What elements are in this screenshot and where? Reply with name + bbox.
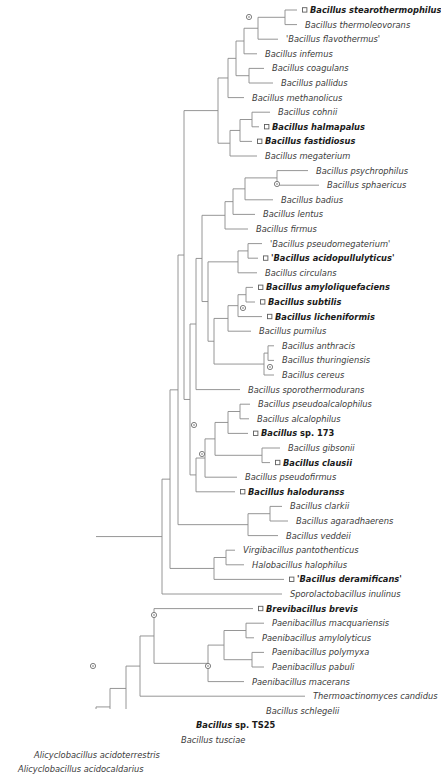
taxon-label: Bacillus firmus [256, 225, 317, 233]
highlighted-taxon-marker [258, 139, 262, 143]
taxon-label: Bacillus agaradhaerens [296, 517, 393, 525]
taxon-label: Virgibacillus pantothenticus [243, 546, 359, 554]
node-stearothermophilus-clade-dot [248, 16, 250, 18]
node-brevibacillus-paenibacillus-dot [153, 614, 155, 616]
taxon-label: Bacillus gibsonii [288, 444, 355, 452]
taxon-label: Bacillus megaterium [265, 152, 350, 160]
taxon-label: Bacillus lentus [263, 210, 323, 218]
taxon-label: Bacillus sphaericus [327, 181, 406, 189]
taxon-label: Bacillus pseudoalcalophilus [258, 400, 372, 408]
taxon-label: Bacillus schlegelii [266, 707, 339, 715]
taxon-label: Bacillus thuringiensis [282, 356, 370, 364]
taxon-label: Bacillus coagulans [272, 64, 349, 72]
taxon-label: Bacillus fastidiosus [265, 137, 355, 145]
taxon-label: Paenibacillus amylolyticus [262, 634, 371, 642]
taxon-label: 'Bacillus flavothermus' [286, 35, 380, 43]
taxon-label: Bacillus sporothermodurans [248, 385, 364, 393]
node-bacillus-core-dot [193, 424, 195, 426]
taxon-label: Bacillus haloduranss [248, 488, 344, 496]
taxon-label: Bacillus methanolicus [252, 93, 342, 101]
node-paenibacillus-polymyxa-dot [207, 665, 209, 667]
taxon-label: Bacillus thermoleovorans [305, 20, 410, 28]
highlighted-taxon-marker [276, 460, 280, 464]
taxon-label: Bacillus infemus [265, 50, 333, 58]
node-deep-backbone-dot [92, 665, 94, 667]
taxon-label: Bacillus halmapalus [272, 123, 365, 131]
taxon-label: Bacillus pallidus [281, 79, 348, 87]
node-subtilis-clade-dot [242, 307, 244, 309]
taxon-label: Paenibacillus pabuli [272, 663, 354, 671]
taxon-label: Paenibacillus macquariensis [272, 619, 389, 627]
node-alkaliphilic-clade-dot [201, 453, 203, 455]
taxon-label: Bacillus sp. TS25 [196, 721, 275, 729]
taxon-label: Bacillus licheniformis [275, 312, 375, 320]
taxon-label: Bacillus badius [281, 196, 343, 204]
taxon-label: Paenibacillus polymyxa [272, 648, 369, 656]
taxon-label: Thermoactinomyces candidus [313, 692, 437, 700]
highlighted-taxon-marker [254, 431, 258, 435]
taxon-label: 'Bacillus deramificans' [297, 575, 402, 583]
taxon-label: Bacillus stearothermophilus [310, 6, 441, 14]
taxon-label: Bacillus tusciae [181, 736, 245, 744]
highlighted-taxon-marker [264, 256, 268, 260]
taxon-label: Halobacillus halophilus [252, 561, 347, 569]
taxon-label: Bacillus sp. 173 [261, 429, 334, 437]
taxon-label: Bacillus clausii [283, 458, 352, 466]
taxon-label: Bacillus subtilis [268, 298, 341, 306]
taxon-label: Bacillus alcalophilus [257, 415, 341, 423]
taxon-label: Bacillus clarkii [290, 502, 349, 510]
taxon-label: Alicyclobacillus acidoterrestris [34, 750, 160, 758]
highlighted-taxon-marker [259, 606, 263, 610]
taxon-label: Bacillus pseudofirmus [245, 473, 336, 481]
highlighted-taxon-marker [265, 125, 269, 129]
taxon-label: Bacillus pumilus [259, 327, 326, 335]
taxon-label: Bacillus anthracis [282, 342, 355, 350]
node-psychrophilus-sphaericus-dot [276, 183, 278, 185]
taxon-label: Bacillus amyloliquefaciens [266, 283, 390, 291]
taxon-label: 'Bacillus pseudomegaterium' [270, 239, 390, 247]
highlighted-taxon-marker [241, 490, 245, 494]
taxon-label: Bacillus circulans [265, 269, 337, 277]
taxon-label: Sporolactobacillus inulinus [290, 590, 401, 598]
taxon-label: Bacillus veddeii [286, 531, 351, 539]
node-cereus-group-dot [269, 366, 271, 368]
taxon-label: Bacillus cohnii [278, 108, 337, 116]
taxon-label: 'Bacillus acidopullulyticus' [271, 254, 394, 262]
highlighted-taxon-marker [290, 577, 294, 581]
taxon-label: Alicyclobacillus acidocaldarius [18, 765, 144, 773]
taxon-label: Brevibacillus brevis [266, 604, 358, 612]
highlighted-taxon-marker [268, 314, 272, 318]
taxon-label: Bacillus cereus [282, 371, 344, 379]
highlighted-taxon-marker [261, 300, 265, 304]
taxon-label: Paenibacillus macerans [252, 677, 350, 685]
highlighted-taxon-marker [303, 8, 307, 12]
highlighted-taxon-marker [259, 285, 263, 289]
taxon-label: Bacillus psychrophilus [316, 166, 408, 174]
